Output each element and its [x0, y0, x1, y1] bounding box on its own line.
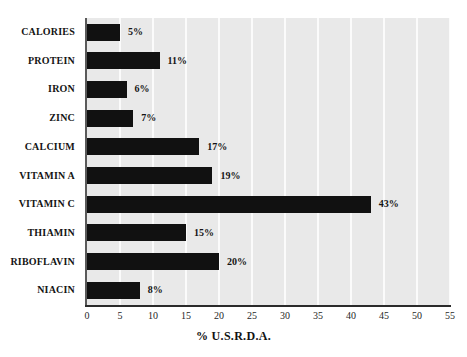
bar	[87, 167, 212, 184]
x-tick-label: 55	[435, 310, 465, 321]
category-label: CALORIES	[21, 18, 75, 47]
bar-value-label: 43%	[379, 190, 399, 219]
x-tick-label: 40	[336, 310, 366, 321]
x-tick-label: 5	[105, 310, 135, 321]
x-tick-label: 50	[402, 310, 432, 321]
x-tick-label: 25	[237, 310, 267, 321]
bar	[87, 110, 133, 127]
x-tick-label: 45	[369, 310, 399, 321]
bar	[87, 253, 219, 270]
bar-value-label: 20%	[227, 248, 247, 277]
bar-chart: CALORIESPROTEINIRONZINCCALCIUMVITAMIN AV…	[0, 0, 467, 357]
bar	[87, 196, 371, 213]
bar	[87, 224, 186, 241]
bar-value-label: 15%	[194, 219, 214, 248]
category-label: THIAMIN	[27, 219, 75, 248]
x-axis-line	[85, 305, 451, 307]
bar-row	[87, 133, 450, 162]
bar	[87, 24, 120, 41]
category-label: IRON	[48, 75, 75, 104]
bar-value-label: 19%	[220, 162, 240, 191]
category-label: CALCIUM	[25, 133, 75, 162]
x-tick-label: 0	[72, 310, 102, 321]
bar-row	[87, 47, 450, 76]
bar-row	[87, 219, 450, 248]
bar	[87, 81, 127, 98]
category-label: VITAMIN C	[19, 190, 75, 219]
x-tick-label: 35	[303, 310, 333, 321]
category-label: RIBOFLAVIN	[10, 248, 75, 277]
bar	[87, 52, 160, 69]
x-tick-label: 30	[270, 310, 300, 321]
bar-row	[87, 248, 450, 277]
bar-value-label: 17%	[207, 133, 227, 162]
category-label: PROTEIN	[28, 47, 75, 76]
bar-value-label: 6%	[135, 75, 150, 104]
category-label: ZINC	[49, 104, 75, 133]
bar-row	[87, 276, 450, 305]
bar-row	[87, 162, 450, 191]
bar	[87, 282, 140, 299]
plot-area	[87, 18, 450, 305]
bar-value-label: 7%	[141, 104, 156, 133]
x-tick-label: 15	[171, 310, 201, 321]
x-tick-label: 20	[204, 310, 234, 321]
bar-value-label: 11%	[168, 47, 187, 76]
bar-value-label: 8%	[148, 276, 163, 305]
x-tick-label: 10	[138, 310, 168, 321]
category-label: NIACIN	[37, 276, 75, 305]
y-axis-line	[85, 18, 87, 306]
bar-value-label: 5%	[128, 18, 143, 47]
category-label: VITAMIN A	[19, 162, 75, 191]
x-axis-title: % U.S.R.D.A.	[0, 329, 467, 344]
category-axis-labels: CALORIESPROTEINIRONZINCCALCIUMVITAMIN AV…	[0, 18, 81, 305]
bar	[87, 138, 199, 155]
